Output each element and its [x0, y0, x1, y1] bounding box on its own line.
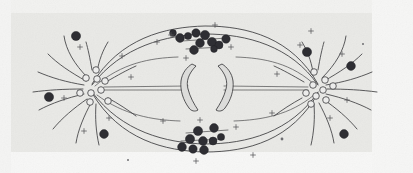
centriole-granule: [94, 76, 101, 83]
cytoplasmic-speck: [281, 138, 284, 141]
centriole-granule: [83, 75, 90, 82]
centriole-granule: [310, 82, 317, 89]
centriole-granule: [303, 90, 310, 97]
centriole-granule: [93, 67, 100, 74]
chromosome-body: [200, 146, 209, 155]
chromosome-body: [211, 46, 218, 53]
chromosome-body: [189, 145, 197, 153]
centriole-granule: [308, 101, 315, 108]
cytoplasmic-granule: [100, 130, 109, 139]
centriole-granule: [98, 87, 105, 94]
centriole-granule: [330, 83, 337, 90]
chromosome-body: [190, 46, 199, 55]
chromosome-body: [176, 34, 185, 43]
mitotic-spindle-illustration: [0, 0, 413, 173]
centriole-granule: [311, 69, 318, 76]
cytoplasmic-granule: [340, 130, 349, 139]
chromosome-body: [184, 32, 191, 39]
figure-container: [0, 0, 413, 173]
centriole-granule: [87, 99, 94, 106]
centriole-granule: [77, 90, 84, 97]
chromosome-body: [199, 137, 208, 146]
centriole-granule: [323, 97, 330, 104]
chromosome-body: [185, 134, 194, 143]
centriole-granule: [102, 78, 109, 85]
chromosome-body: [196, 39, 205, 48]
chromosome-body: [222, 35, 230, 43]
cytoplasmic-granule: [347, 62, 356, 71]
centriole-granule: [313, 93, 320, 100]
chromosome-body: [200, 30, 209, 39]
chromosome-body: [192, 29, 200, 37]
cytoplasmic-granule: [71, 31, 80, 40]
centriole-granule: [105, 98, 112, 105]
cytoplasmic-granule: [302, 47, 311, 56]
cytoplasmic-speck: [362, 43, 364, 45]
centriole-granule: [88, 90, 95, 97]
cytoplasmic-speck: [127, 159, 129, 161]
cytoplasmic-granule: [44, 92, 53, 101]
chromosome-body: [217, 133, 224, 140]
chromosome-body: [209, 137, 217, 145]
chromosome-body: [178, 143, 187, 152]
centriole-granule: [322, 77, 329, 84]
chromosome-body: [170, 30, 177, 37]
centriole-granule: [320, 87, 327, 94]
chromosome-body: [210, 124, 219, 133]
chromosome-body: [193, 126, 202, 135]
